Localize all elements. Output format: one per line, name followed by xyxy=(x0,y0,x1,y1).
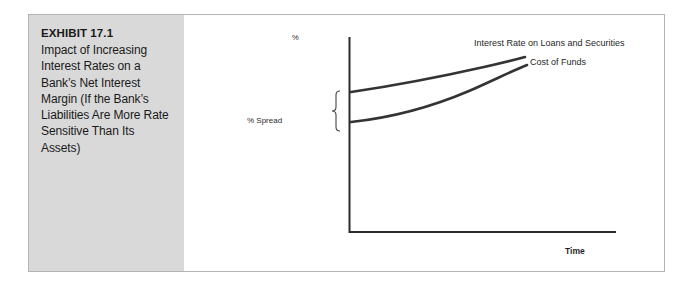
series-line-cost-of-funds xyxy=(351,65,527,122)
caption-panel: EXHIBIT 17.1 Impact of Increasing Intere… xyxy=(29,15,184,271)
series-label-interest-rate: Interest Rate on Loans and Securities xyxy=(474,38,625,48)
chart-plot-area: % Time % Spread Interest Rate on Loans a… xyxy=(184,15,664,271)
exhibit-title: Impact of Increasing Interest Rates on a… xyxy=(41,42,175,156)
caption-text-block: EXHIBIT 17.1 Impact of Increasing Intere… xyxy=(41,26,175,156)
series-label-cost-of-funds: Cost of Funds xyxy=(530,57,586,67)
exhibit-figure: EXHIBIT 17.1 Impact of Increasing Intere… xyxy=(0,0,694,296)
spread-annotation-label: % Spread xyxy=(247,116,282,125)
y-axis-label: % xyxy=(292,33,299,42)
series-line-interest-rate xyxy=(351,57,525,92)
spread-brace-icon xyxy=(332,91,340,131)
chart-svg xyxy=(184,15,666,273)
exhibit-frame: EXHIBIT 17.1 Impact of Increasing Intere… xyxy=(28,14,665,272)
exhibit-number: EXHIBIT 17.1 xyxy=(41,26,175,41)
x-axis-label: Time xyxy=(565,246,585,256)
